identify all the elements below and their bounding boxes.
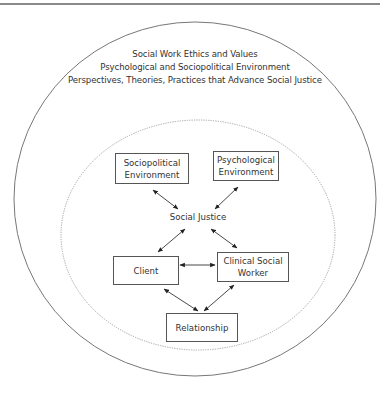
node-client: Client (113, 256, 179, 285)
node-clinical-social-worker: Clinical Social Worker (217, 252, 289, 282)
arrow-worker-relationship (204, 285, 234, 311)
node-relationship-label: Relationship (176, 322, 229, 334)
outer-label-ethics: Social Work Ethics and Values (40, 48, 350, 61)
node-psychological-line1: Psychological (217, 154, 275, 166)
arrow-justice-worker (211, 229, 237, 248)
outer-label-perspectives: Perspectives, Theories, Practices that A… (40, 74, 350, 87)
node-psychological-line2: Environment (217, 166, 275, 178)
node-sociopolitical-line1: Sociopolitical (124, 157, 181, 169)
outer-label-environment: Psychological and Sociopolitical Environ… (40, 61, 350, 74)
node-worker-line2: Worker (223, 267, 282, 279)
arrow-client-relationship (164, 289, 198, 311)
arrow-psychological-justice (215, 187, 238, 209)
node-sociopolitical-environment: Sociopolitical Environment (115, 153, 189, 184)
node-worker-line1: Clinical Social (223, 255, 282, 267)
node-sociopolitical-line2: Environment (124, 169, 181, 181)
arrow-sociopolitical-justice (153, 190, 178, 209)
node-relationship: Relationship (166, 313, 238, 342)
arrow-justice-client (158, 229, 185, 252)
outer-circle-labels: Social Work Ethics and Values Psychologi… (40, 48, 350, 87)
node-client-label: Client (134, 265, 159, 277)
node-psychological-environment: Psychological Environment (213, 151, 279, 181)
node-social-justice: Social Justice (158, 212, 238, 222)
